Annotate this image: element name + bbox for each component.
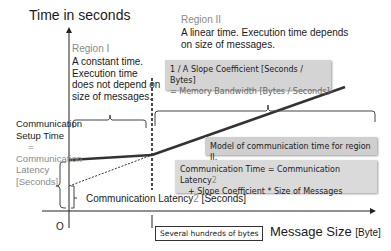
x-axis-arrow-icon: [370, 208, 376, 214]
equation-line1-text: Communication Time = Communication Laten…: [180, 165, 340, 185]
slope-line1: 1 / A Slope Coefficient [Seconds / Bytes…: [170, 64, 331, 86]
region2-description: A linear time. Execution time depends on…: [181, 27, 356, 51]
equation-line1-sup: 2: [212, 176, 217, 185]
latency2-text: Communication Latency: [86, 193, 193, 204]
origin-label: O: [56, 221, 64, 232]
y-axis-label: Time in seconds: [29, 7, 130, 23]
region1-title: Region I: [72, 43, 109, 54]
equation-box: Communication Time = Communication Laten…: [175, 160, 377, 193]
region1-brace: [73, 115, 146, 128]
setup-time-line2: Communication Latency [Seconds]: [16, 153, 81, 188]
latency2-unit: [Seconds]: [199, 193, 246, 204]
setup-time-line1: Communication Setup Time: [16, 118, 81, 141]
latency2-bracket: [71, 186, 77, 208]
slope-coefficient-box: 1 / A Slope Coefficient [Seconds / Bytes…: [165, 60, 331, 90]
slope-line2: = Memory Bandwidth [Bytes / Seconds]: [170, 86, 331, 97]
threshold-label-box: Several hundreds of bytes: [155, 226, 263, 241]
setup-time-equals: =: [16, 141, 81, 153]
x-axis-label: Message Size [Byte]: [270, 224, 381, 239]
y-axis-arrow-icon: [66, 27, 72, 33]
setup-time-label: Communication Setup Time = Communication…: [16, 118, 81, 187]
equation-line1: Communication Time = Communication Laten…: [180, 164, 377, 186]
x-axis-label-text: Message Size: [270, 224, 352, 239]
latency2-label: Communication Latency2 [Seconds]: [86, 193, 246, 204]
model-box: Model of communication time for region I…: [205, 137, 377, 155]
region2-title: Region II: [181, 14, 221, 25]
x-axis-unit: [Byte]: [355, 227, 381, 238]
region1-description: A constant time. Execution time does not…: [72, 56, 162, 103]
